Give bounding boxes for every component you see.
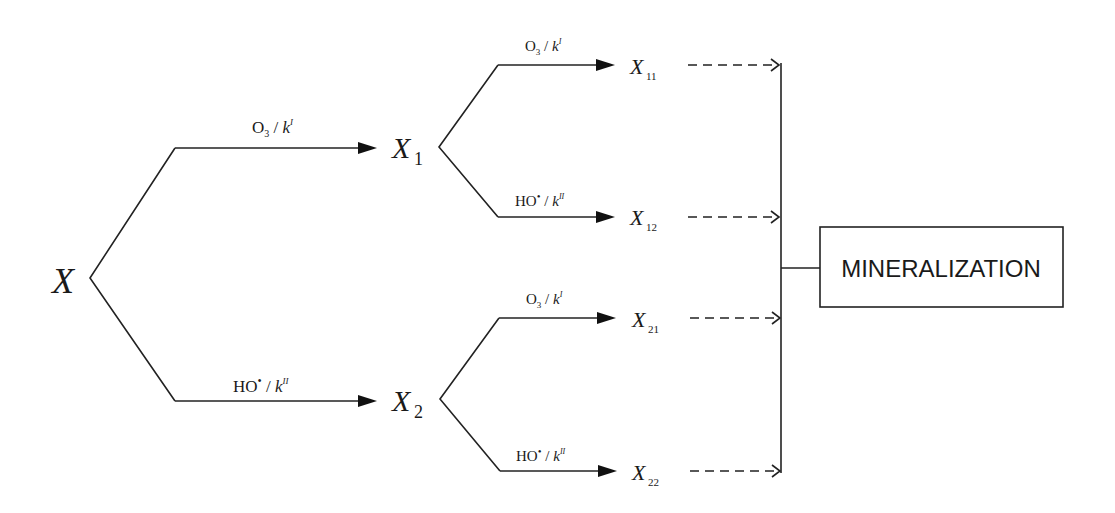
- edge-label-ozone: O3 / kI: [525, 37, 562, 57]
- svg-text:22: 22: [648, 476, 659, 488]
- svg-text:X: X: [391, 384, 412, 417]
- svg-text:21: 21: [648, 323, 659, 335]
- root-branch-connector: [90, 148, 175, 401]
- node-x-label: X: [50, 261, 76, 301]
- open-arrowhead-icon: [771, 211, 779, 223]
- edge-label-ozone: O3 / kI: [526, 290, 563, 310]
- svg-text:X: X: [629, 205, 645, 230]
- x2-branch-connector: [440, 318, 500, 471]
- node-x22: X 22: [631, 460, 659, 488]
- node-x1: X 1: [391, 131, 423, 169]
- svg-text:12: 12: [646, 221, 657, 233]
- edge-label-hydroxyl: HO• / kII: [515, 190, 565, 209]
- node-x2: X 2: [391, 384, 423, 422]
- arrowhead-icon: [596, 211, 615, 223]
- svg-text:X: X: [629, 54, 645, 79]
- svg-text:X: X: [391, 131, 412, 164]
- node-x12: X 12: [629, 205, 657, 233]
- node-mineralization: MINERALIZATION: [820, 227, 1063, 307]
- svg-text:X: X: [631, 460, 647, 485]
- node-x21: X 21: [631, 307, 659, 335]
- svg-text:2: 2: [414, 402, 423, 422]
- edge-label-hydroxyl: HO• / kII: [233, 374, 290, 396]
- arrowhead-icon: [598, 465, 617, 477]
- svg-text:X: X: [631, 307, 647, 332]
- node-x11: X 11: [629, 54, 657, 82]
- x1-branch-connector: [439, 65, 498, 217]
- edge-label-hydroxyl: HO• / kII: [516, 445, 566, 464]
- svg-text:1: 1: [414, 149, 423, 169]
- arrowhead-icon: [358, 395, 377, 407]
- svg-text:11: 11: [646, 70, 657, 82]
- mineralization-label: MINERALIZATION: [841, 255, 1041, 282]
- open-arrowhead-icon: [771, 59, 779, 71]
- edge-label-ozone: O3 / kI: [252, 117, 294, 139]
- arrowhead-icon: [596, 59, 615, 71]
- arrowhead-icon: [358, 142, 377, 154]
- arrowhead-icon: [597, 312, 616, 324]
- reaction-pathway-diagram: X O3 / kI HO• / kII X 1 O3 / kI HO• / kI…: [0, 0, 1115, 513]
- node-x: X: [50, 261, 76, 301]
